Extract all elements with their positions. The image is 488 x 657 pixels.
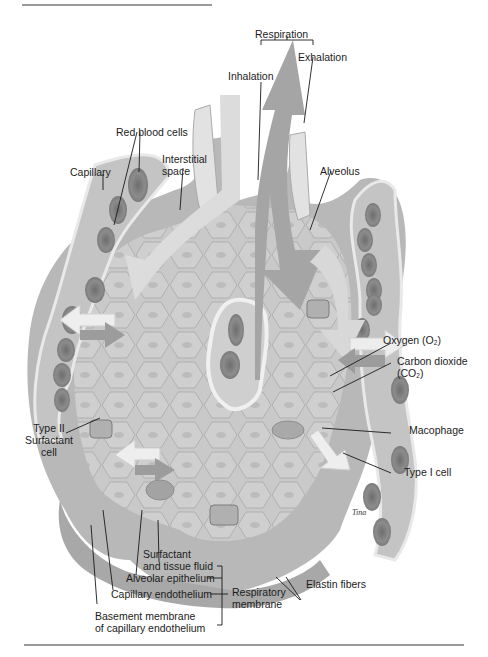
alveolus-illustration: Tina (0, 0, 488, 657)
label-macrophage: Macophage (409, 424, 464, 436)
respiratory-membrane-line2: membrane (232, 598, 282, 610)
oxygen-text: Oxygen (O (383, 334, 434, 346)
respiratory-membrane-line1: Respiratory (232, 586, 286, 598)
type-ii-line1: Type II (33, 422, 65, 434)
label-capillary: Capillary (70, 166, 111, 178)
basement-line1: Basement membrane (95, 610, 195, 622)
label-red-blood-cells: Red blood cells (116, 126, 188, 138)
label-interstitial-line2: space (162, 165, 190, 177)
label-basement-membrane: Basement membrane of capillary endotheli… (95, 610, 205, 634)
label-inhalation: Inhalation (228, 70, 274, 82)
oxygen-close: ) (437, 334, 441, 346)
co2-close: ) (420, 367, 424, 379)
co2-line1: Carbon dioxide (397, 355, 468, 367)
label-interstitial-line1: Interstitial (162, 153, 207, 165)
label-alveolus: Alveolus (320, 165, 360, 177)
label-oxygen: Oxygen (O2) (383, 334, 441, 349)
macrophage-cell (272, 421, 304, 439)
surfactant-line2: and tissue fluid (143, 560, 213, 572)
label-carbon-dioxide: Carbon dioxide (CO2) (397, 355, 468, 382)
label-respiration: Respiration (255, 28, 308, 40)
label-respiratory-membrane: Respiratory membrane (232, 586, 286, 610)
surfactant-macrophage (146, 480, 174, 500)
label-elastin-fibers: Elastin fibers (306, 578, 366, 590)
label-alveolar-epithelium: Alveolar epithelium (126, 572, 215, 584)
type-ii-line2: Surfactant (25, 434, 73, 446)
illustrator-signature: Tina (352, 508, 366, 517)
surfactant-line1: Surfactant (143, 548, 191, 560)
label-interstitial-space: Interstitial space (162, 153, 207, 177)
label-type-i-cell: Type I cell (404, 466, 451, 478)
co2-line2: (CO (397, 367, 416, 379)
label-capillary-endothelium: Capillary endothelium (111, 588, 212, 600)
type-ii-line3: cell (41, 446, 57, 458)
label-exhalation: Exhalation (298, 51, 347, 63)
label-type-ii-surfactant-cell: Type II Surfactant cell (24, 422, 74, 458)
label-surfactant-tissue-fluid: Surfactant and tissue fluid (143, 548, 213, 572)
basement-line2: of capillary endothelium (95, 622, 205, 634)
